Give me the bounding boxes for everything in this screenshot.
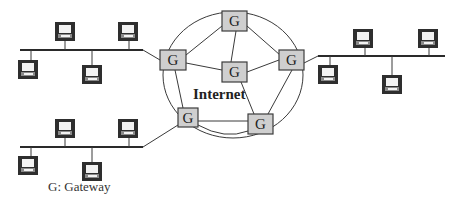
computer-icon bbox=[418, 29, 438, 48]
computer-icon bbox=[55, 119, 75, 138]
computer-icon bbox=[55, 22, 75, 41]
computer-icon bbox=[18, 60, 38, 79]
gateway-right: G bbox=[279, 50, 304, 70]
svg-text:G: G bbox=[255, 116, 266, 132]
internet-label: Internet bbox=[193, 86, 246, 102]
svg-text:G: G bbox=[286, 52, 297, 68]
svg-text:G: G bbox=[229, 13, 240, 29]
network-diagram: G G G G G G Internet G: Gateway bbox=[0, 0, 461, 207]
gateway-bottom-left: G bbox=[178, 108, 198, 127]
svg-text:G: G bbox=[168, 52, 179, 68]
gateway-top: G bbox=[222, 11, 247, 31]
computer-icon bbox=[118, 119, 138, 138]
svg-text:G: G bbox=[183, 110, 194, 126]
gateway-bottom-right: G bbox=[248, 114, 273, 134]
legend-label: G: Gateway bbox=[48, 179, 111, 194]
computer-icon bbox=[18, 156, 38, 175]
computer-icon bbox=[82, 65, 102, 84]
gateway-center: G bbox=[222, 62, 247, 82]
lan-bottom-left bbox=[18, 119, 178, 181]
gateway-left: G bbox=[160, 50, 186, 70]
computer-icon bbox=[118, 22, 138, 41]
lan-right bbox=[304, 29, 445, 94]
svg-text:G: G bbox=[229, 64, 240, 80]
lan-top-left bbox=[18, 22, 160, 84]
computer-icon bbox=[353, 29, 373, 48]
computer-icon bbox=[318, 65, 338, 84]
computer-icon bbox=[382, 75, 402, 94]
